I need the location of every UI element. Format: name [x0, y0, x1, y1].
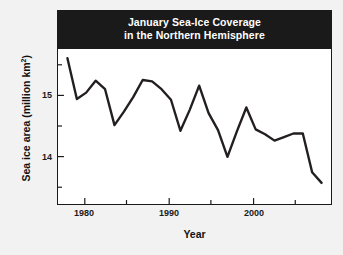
chart-title-line-2: in the Northern Hemisphere: [124, 29, 265, 42]
y-tick-label-15: 15: [30, 90, 52, 100]
sea-ice-data-line: [67, 58, 321, 183]
x-tick-label-1980: 1980: [64, 208, 104, 218]
x-axis-label: Year: [57, 228, 332, 240]
plot-svg: [58, 49, 331, 204]
chart-title-line-1: January Sea-Ice Coverage: [128, 16, 261, 29]
y-axis-ticks: [58, 65, 64, 187]
y-axis-label-superscript: 2: [20, 59, 27, 63]
sea-ice-chart-figure: January Sea-Ice Coverage in the Northern…: [0, 0, 343, 255]
plot-area: [57, 48, 332, 205]
y-axis-label-suffix: ): [20, 55, 32, 59]
y-axis-label-prefix: Sea ice area (million km: [20, 62, 32, 181]
y-tick-label-14: 14: [30, 152, 52, 162]
chart-title-bar: January Sea-Ice Coverage in the Northern…: [57, 10, 332, 48]
x-axis-ticks: [85, 198, 295, 204]
x-tick-label-2000: 2000: [234, 208, 274, 218]
x-tick-label-1990: 1990: [149, 208, 189, 218]
y-axis-label: Sea ice area (million km2): [20, 43, 33, 193]
